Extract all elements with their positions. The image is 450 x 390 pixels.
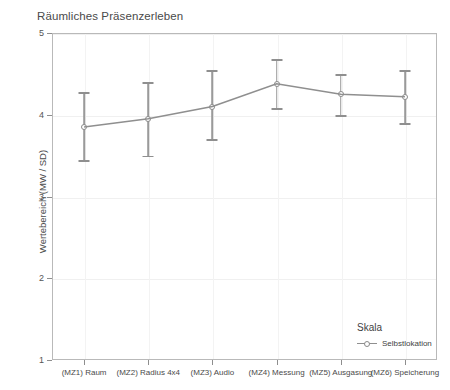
gridline-vertical xyxy=(342,34,343,359)
x-axis-tick-label: (MZ5) Ausgasung xyxy=(309,368,372,377)
legend-item-selbstlokation[interactable]: Selbstlokation xyxy=(357,339,432,348)
error-bar-cap xyxy=(271,59,282,61)
legend-title: Skala xyxy=(357,322,432,333)
data-point-marker xyxy=(145,116,151,122)
x-axis-tick-label: (MZ2) Radius 4x4 xyxy=(116,368,180,377)
chart-title: Räumliches Präsenzerleben xyxy=(37,10,183,22)
y-axis-tick-mark xyxy=(47,360,52,361)
y-axis-tick-mark xyxy=(47,115,52,116)
x-axis-tick-mark xyxy=(341,360,342,365)
chart-container: Räumliches Präsenzerleben Wertebereich (… xyxy=(0,0,450,390)
x-axis-tick-mark xyxy=(84,360,85,365)
gridline-vertical xyxy=(406,34,407,359)
error-bar-cap xyxy=(399,123,410,125)
y-axis-tick-mark xyxy=(47,33,52,34)
x-axis-tick-label: (MZ6) Speicherung xyxy=(371,368,439,377)
error-bar-cap xyxy=(335,115,346,117)
gridline-horizontal xyxy=(53,34,436,35)
gridline-vertical xyxy=(85,34,86,359)
plot-area xyxy=(52,33,437,360)
y-axis-tick-label: 2 xyxy=(26,273,44,283)
x-axis-tick-label: (MZ1) Raum xyxy=(62,368,107,377)
gridline-horizontal xyxy=(53,279,436,280)
error-bar-cap xyxy=(79,160,90,162)
error-bar-cap xyxy=(271,108,282,110)
gridline-vertical xyxy=(213,34,214,359)
error-bar-cap xyxy=(399,70,410,72)
data-point-marker xyxy=(274,81,280,87)
x-axis-tick-label: (MZ4) Messung xyxy=(249,368,305,377)
legend: Skala Selbstlokation xyxy=(357,322,432,348)
legend-marker-icon xyxy=(357,340,377,348)
y-axis-tick-label: 4 xyxy=(26,110,44,120)
legend-item-label: Selbstlokation xyxy=(382,339,432,348)
error-bar-cap xyxy=(335,74,346,76)
data-point-marker xyxy=(338,91,344,97)
y-axis-tick-label: 5 xyxy=(26,28,44,38)
y-axis-tick-mark xyxy=(47,278,52,279)
error-bar-cap xyxy=(79,92,90,94)
error-bar-cap xyxy=(143,82,154,84)
data-point-marker xyxy=(81,124,87,130)
error-bar-cap xyxy=(207,70,218,72)
x-axis-tick-mark xyxy=(212,360,213,365)
y-axis-tick-mark xyxy=(47,197,52,198)
x-axis-tick-mark xyxy=(277,360,278,365)
y-axis-tick-label: 3 xyxy=(26,192,44,202)
y-axis-tick-label: 1 xyxy=(26,355,44,365)
x-axis-tick-mark xyxy=(405,360,406,365)
error-bar-cap xyxy=(143,156,154,158)
data-point-marker xyxy=(209,104,215,110)
gridline-horizontal xyxy=(53,198,436,199)
gridline-horizontal xyxy=(53,116,436,117)
x-axis-tick-label: (MZ3) Audio xyxy=(191,368,235,377)
data-point-marker xyxy=(402,94,408,100)
x-axis-tick-mark xyxy=(148,360,149,365)
error-bar-cap xyxy=(207,139,218,141)
